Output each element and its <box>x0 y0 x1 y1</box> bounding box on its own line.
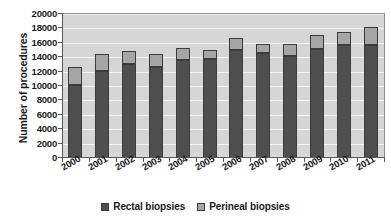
legend-label: Perineal biopsies <box>209 201 290 212</box>
y-axis-tick-label: 0 <box>20 152 57 163</box>
y-axis-tick-mark <box>58 99 62 100</box>
x-axis-tick-mark <box>277 158 278 162</box>
y-axis-tick-mark <box>58 114 62 115</box>
plot-area <box>62 13 385 158</box>
bar-segment-rectal-biopsies[interactable] <box>68 85 82 158</box>
bar-segment-perineal-biopsies[interactable] <box>229 38 243 50</box>
y-axis-tick-mark <box>58 85 62 86</box>
x-axis-tick-mark <box>169 158 170 162</box>
y-axis-tick-label: 14000 <box>20 51 57 62</box>
y-axis-tick-mark <box>58 128 62 129</box>
bar-segment-rectal-biopsies[interactable] <box>229 50 243 158</box>
legend-swatch-icon <box>101 203 109 211</box>
bar-segment-perineal-biopsies[interactable] <box>68 67 82 84</box>
bar-segment-rectal-biopsies[interactable] <box>149 67 163 158</box>
x-axis-tick-mark <box>89 158 90 162</box>
y-axis-tick-mark <box>58 71 62 72</box>
y-axis-tick-labels: 0200040006000800010000120001400016000180… <box>20 13 57 157</box>
bar-segment-perineal-biopsies[interactable] <box>337 32 351 45</box>
bar-segment-perineal-biopsies[interactable] <box>122 51 136 65</box>
y-axis-tick-label: 18000 <box>20 22 57 33</box>
stacked-bar-chart: Number of procedures 0200040006000800010… <box>0 0 391 222</box>
bar-segment-perineal-biopsies[interactable] <box>203 50 217 59</box>
y-axis-tick-label: 16000 <box>20 36 57 47</box>
bar-segment-perineal-biopsies[interactable] <box>256 44 270 54</box>
y-axis-tick-mark <box>58 56 62 57</box>
y-axis-tick-mark <box>58 143 62 144</box>
bar-segment-perineal-biopsies[interactable] <box>283 44 297 56</box>
chart-legend: Rectal biopsiesPerineal biopsies <box>0 201 391 212</box>
x-axis-tick-mark <box>62 158 63 162</box>
x-axis-tick-mark <box>357 158 358 162</box>
bar-segment-rectal-biopsies[interactable] <box>364 45 378 158</box>
legend-label: Rectal biopsies <box>113 201 185 212</box>
y-axis-tick-label: 6000 <box>20 108 57 119</box>
bar-segment-rectal-biopsies[interactable] <box>283 56 297 158</box>
x-axis-tick-mark <box>330 158 331 162</box>
bar-segment-rectal-biopsies[interactable] <box>95 71 109 158</box>
bars-layer <box>62 14 384 158</box>
x-axis-tick-mark <box>116 158 117 162</box>
bar-segment-perineal-biopsies[interactable] <box>95 54 109 71</box>
y-axis-line <box>62 13 63 158</box>
bar-segment-perineal-biopsies[interactable] <box>310 35 324 49</box>
x-axis-tick-mark <box>250 158 251 162</box>
y-axis-tick-label: 20000 <box>20 8 57 19</box>
y-axis-tick-label: 4000 <box>20 123 57 134</box>
y-axis-tick-label: 10000 <box>20 80 57 91</box>
y-axis-tick-mark <box>58 27 62 28</box>
bar-segment-rectal-biopsies[interactable] <box>337 45 351 158</box>
bar-segment-rectal-biopsies[interactable] <box>203 59 217 158</box>
bar-segment-rectal-biopsies[interactable] <box>122 64 136 158</box>
bar-segment-perineal-biopsies[interactable] <box>149 54 163 67</box>
x-axis-tick-mark <box>143 158 144 162</box>
bar-segment-rectal-biopsies[interactable] <box>176 60 190 158</box>
legend-item[interactable]: Rectal biopsies <box>101 201 185 212</box>
bar-segment-rectal-biopsies[interactable] <box>310 49 324 158</box>
x-axis-tick-mark <box>304 158 305 162</box>
x-axis-tick-mark <box>196 158 197 162</box>
y-axis-tick-mark <box>58 13 62 14</box>
x-axis-tick-mark <box>223 158 224 162</box>
legend-item[interactable]: Perineal biopsies <box>197 201 290 212</box>
bar-segment-perineal-biopsies[interactable] <box>364 27 378 45</box>
x-axis-tick-mark <box>384 158 385 162</box>
y-axis-tick-mark <box>58 42 62 43</box>
y-axis-tick-label: 8000 <box>20 94 57 105</box>
bar-segment-perineal-biopsies[interactable] <box>176 48 190 61</box>
y-axis-tick-label: 12000 <box>20 65 57 76</box>
legend-swatch-icon <box>197 203 205 211</box>
y-axis-tick-label: 2000 <box>20 137 57 148</box>
bar-segment-rectal-biopsies[interactable] <box>256 53 270 158</box>
